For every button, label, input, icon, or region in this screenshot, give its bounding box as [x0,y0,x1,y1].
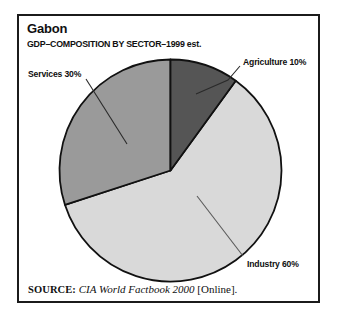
source-line: SOURCE: CIA World Factbook 2000 [Online]… [28,283,237,295]
title-block: Gabon GDP–COMPOSITION BY SECTOR–1999 est… [27,22,267,50]
source-label: SOURCE: [28,284,76,295]
source-suffix: [Online]. [197,283,237,295]
page-title: Gabon [27,22,267,36]
slice-label-agriculture: Agriculture 10% [243,57,306,67]
slice-label-industry: Industry 60% [247,259,299,269]
figure-container: Gabon GDP–COMPOSITION BY SECTOR–1999 est… [0,0,337,318]
chart-subtitle: GDP–COMPOSITION BY SECTOR–1999 est. [27,38,257,50]
source-title: CIA World Factbook 2000 [79,283,195,295]
slice-label-services: Services 30% [28,69,81,79]
